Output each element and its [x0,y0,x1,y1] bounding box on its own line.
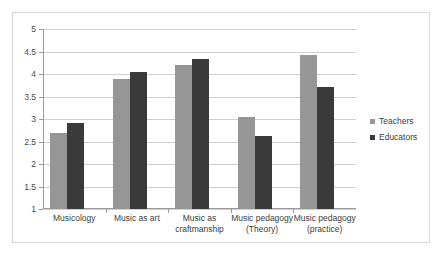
chart-legend: TeachersEducators [370,113,430,145]
y-axis-tick-label: 1 [31,204,36,214]
bar-teachers[interactable] [50,133,67,209]
legend-label: Teachers [379,116,414,126]
bar-group [168,29,231,209]
category-axis-labels: MusicologyMusic as artMusic as craftmans… [43,213,356,247]
bar-educators[interactable] [67,123,84,209]
y-axis-tick-label: 1.5 [24,182,36,192]
legend-label: Educators [379,132,417,142]
y-axis-tick [39,209,43,210]
y-axis-tick-label: 2 [31,159,36,169]
chart-frame: 54.543.532.521.51 MusicologyMusic as art… [12,12,430,243]
legend-swatch-icon [370,119,375,124]
bar-group [231,29,294,209]
y-axis-tick-label: 3.5 [24,92,36,102]
bar-group [293,29,356,209]
bar-group [43,29,106,209]
legend-item[interactable]: Teachers [370,113,430,129]
bars-layer [43,29,356,209]
y-axis-tick-label: 2.5 [24,137,36,147]
y-axis-tick-label: 3 [31,114,36,124]
bar-teachers[interactable] [300,55,317,209]
bar-teachers[interactable] [175,65,192,209]
y-axis-tick-label: 4.5 [24,47,36,57]
plot-area: 54.543.532.521.51 [43,29,356,209]
y-axis-tick-label: 4 [31,69,36,79]
category-label: Music pedagogy (practice) [287,213,362,235]
bar-educators[interactable] [255,136,272,209]
bar-educators[interactable] [130,72,147,209]
bar-educators[interactable] [317,87,334,209]
gridline [43,209,356,210]
legend-swatch-icon [370,135,375,140]
y-axis-tick-label: 5 [31,24,36,34]
bar-teachers[interactable] [113,79,130,209]
legend-item[interactable]: Educators [370,129,430,145]
bar-teachers[interactable] [238,117,255,209]
bar-group [106,29,169,209]
bar-educators[interactable] [192,59,209,209]
